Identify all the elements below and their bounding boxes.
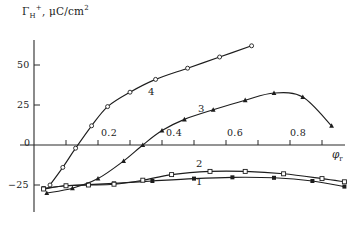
chart-plot-area: [0, 0, 361, 228]
data-point-series-2: [342, 180, 346, 184]
data-point-series-2: [282, 172, 286, 176]
y-axis-ticks: [34, 65, 40, 185]
x-axis-label: φr: [332, 148, 343, 163]
y-axis-label-units: , μC/cm: [42, 5, 84, 17]
data-point-series-4: [106, 105, 110, 109]
y-tick-label-25: 25: [17, 99, 30, 110]
y-tick-label-0: 0: [24, 137, 30, 148]
data-point-series-1: [230, 175, 234, 179]
series-layer: [42, 44, 347, 195]
chart-figure: ΓH+, μC/cm2 φr 50 25 0 −25 0.2 0.4 0.6 0…: [0, 0, 361, 228]
data-point-series-4: [154, 77, 158, 81]
data-point-series-2: [112, 182, 116, 186]
x-tick-label-0-4: 0.4: [166, 127, 182, 138]
data-point-series-2: [208, 169, 212, 173]
data-point-series-4: [61, 165, 65, 169]
x-tick-label-0-8: 0.8: [290, 127, 306, 138]
data-point-series-2: [64, 184, 68, 188]
data-point-series-2: [170, 173, 174, 177]
data-point-series-4: [90, 124, 94, 128]
y-tick-label-50: 50: [17, 59, 30, 70]
data-point-series-1: [310, 179, 314, 183]
data-point-series-4: [250, 44, 254, 48]
x-axis-ticks: [66, 140, 322, 145]
x-tick-label-0-2: 0.2: [101, 127, 117, 138]
x-axis-label-subscript: r: [339, 155, 342, 163]
data-point-series-4: [186, 66, 190, 70]
data-point-series-1: [342, 185, 346, 189]
data-point-series-1: [272, 176, 276, 180]
data-point-series-4: [74, 146, 78, 150]
y-axis-label-subscript: H: [30, 12, 36, 20]
data-point-series-2: [320, 177, 324, 181]
data-point-series-2: [243, 169, 247, 173]
data-point-series-3: [160, 128, 165, 133]
curve-label-2: 2: [196, 158, 202, 169]
curve-label-1: 1: [196, 176, 202, 187]
data-point-series-4: [218, 55, 222, 59]
y-tick-label-minus25: −25: [8, 179, 29, 190]
data-point-series-2: [141, 178, 145, 182]
data-point-series-2: [42, 187, 46, 191]
curve-label-3: 3: [198, 103, 204, 114]
data-point-series-4: [48, 183, 52, 187]
data-point-series-4: [128, 90, 132, 94]
data-point-series-1: [150, 179, 154, 183]
x-tick-label-0-6: 0.6: [227, 127, 243, 138]
y-axis-label-exponent: 2: [84, 4, 89, 12]
curve-series-3: [47, 93, 332, 193]
curve-series-4: [50, 46, 252, 185]
curve-label-4: 4: [148, 86, 154, 97]
y-axis-label-gamma: Γ: [22, 5, 30, 17]
y-axis-label: ΓH+, μC/cm2: [22, 4, 89, 20]
